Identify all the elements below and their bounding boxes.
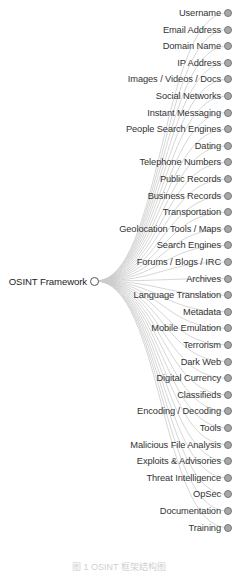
collapsed-node-circle-icon[interactable] xyxy=(224,225,232,233)
category-label: OpSec xyxy=(193,489,221,499)
category-node-mobile-emulation[interactable]: Mobile Emulation xyxy=(151,321,232,335)
category-node-archives[interactable]: Archives xyxy=(186,272,232,286)
collapsed-node-circle-icon[interactable] xyxy=(224,441,232,449)
collapsed-node-circle-icon[interactable] xyxy=(224,241,232,249)
category-node-people-search-engines[interactable]: People Search Engines xyxy=(126,122,232,136)
category-label: Instant Messaging xyxy=(147,108,221,118)
collapsed-node-circle-icon[interactable] xyxy=(224,9,232,17)
category-label: Username xyxy=(179,8,221,18)
collapsed-node-circle-icon[interactable] xyxy=(224,341,232,349)
tree-root-node[interactable]: OSINT Framework xyxy=(0,274,99,288)
category-node-opsec[interactable]: OpSec xyxy=(193,487,232,501)
collapsed-node-circle-icon[interactable] xyxy=(224,308,232,316)
category-label: Search Engines xyxy=(157,240,221,250)
collapsed-node-circle-icon[interactable] xyxy=(224,524,232,532)
collapsed-node-circle-icon[interactable] xyxy=(224,192,232,200)
collapsed-node-circle-icon[interactable] xyxy=(224,358,232,366)
collapsed-node-circle-icon[interactable] xyxy=(224,258,232,266)
category-node-tools[interactable]: Tools xyxy=(200,421,232,435)
root-label: OSINT Framework xyxy=(9,276,87,287)
collapsed-node-circle-icon[interactable] xyxy=(224,42,232,50)
category-node-username[interactable]: Username xyxy=(179,6,232,20)
category-node-transportation[interactable]: Transportation xyxy=(163,205,232,219)
category-label: Domain Name xyxy=(163,41,221,51)
category-label: Archives xyxy=(186,274,221,284)
category-label: Terrorism xyxy=(183,340,221,350)
category-node-social-networks[interactable]: Social Networks xyxy=(156,89,232,103)
category-node-encoding-decoding[interactable]: Encoding / Decoding xyxy=(137,404,232,418)
collapsed-node-circle-icon[interactable] xyxy=(224,424,232,432)
category-label: Public Records xyxy=(160,174,221,184)
category-node-email-address[interactable]: Email Address xyxy=(163,23,232,37)
category-label: Social Networks xyxy=(156,91,221,101)
collapsed-node-circle-icon[interactable] xyxy=(224,490,232,498)
collapsed-node-circle-icon[interactable] xyxy=(224,142,232,150)
category-label: Threat Intelligence xyxy=(146,473,221,483)
category-node-business-records[interactable]: Business Records xyxy=(148,189,232,203)
category-label: Mobile Emulation xyxy=(151,323,221,333)
collapsed-node-circle-icon[interactable] xyxy=(224,507,232,515)
category-node-search-engines[interactable]: Search Engines xyxy=(157,238,232,252)
collapsed-node-circle-icon[interactable] xyxy=(224,391,232,399)
category-label: Documentation xyxy=(160,506,221,516)
category-node-telephone-numbers[interactable]: Telephone Numbers xyxy=(139,155,232,169)
category-node-exploits-advisories[interactable]: Exploits & Advisories xyxy=(137,454,232,468)
collapsed-node-circle-icon[interactable] xyxy=(224,175,232,183)
collapsed-node-circle-icon[interactable] xyxy=(224,407,232,415)
category-node-images-videos-docs[interactable]: Images / Videos / Docs xyxy=(128,72,232,86)
collapsed-node-circle-icon[interactable] xyxy=(224,26,232,34)
collapsed-node-circle-icon[interactable] xyxy=(224,109,232,117)
category-node-dating[interactable]: Dating xyxy=(195,139,232,153)
category-node-training[interactable]: Training xyxy=(189,521,232,535)
collapsed-node-circle-icon[interactable] xyxy=(224,457,232,465)
category-label: Business Records xyxy=(148,191,221,201)
category-label: Encoding / Decoding xyxy=(137,406,221,416)
category-label: Telephone Numbers xyxy=(139,157,221,167)
collapsed-node-circle-icon[interactable] xyxy=(224,75,232,83)
category-node-forums-blogs-irc[interactable]: Forums / Blogs / IRC xyxy=(137,255,232,269)
category-label: Images / Videos / Docs xyxy=(128,74,221,84)
collapsed-node-circle-icon[interactable] xyxy=(224,92,232,100)
category-label: Dark Web xyxy=(181,357,221,367)
collapsed-node-circle-icon[interactable] xyxy=(224,59,232,67)
category-label: Transportation xyxy=(163,207,221,217)
collapsed-node-circle-icon[interactable] xyxy=(224,324,232,332)
category-label: IP Address xyxy=(177,58,221,68)
category-label: Training xyxy=(189,523,221,533)
collapsed-node-circle-icon[interactable] xyxy=(224,125,232,133)
collapsed-node-circle-icon[interactable] xyxy=(224,158,232,166)
category-label: Dating xyxy=(195,141,221,151)
category-label: Metadata xyxy=(183,307,221,317)
category-node-public-records[interactable]: Public Records xyxy=(160,172,232,186)
collapsed-node-circle-icon[interactable] xyxy=(224,291,232,299)
category-node-language-translation[interactable]: Language Translation xyxy=(134,288,232,302)
category-node-ip-address[interactable]: IP Address xyxy=(177,56,232,70)
category-node-metadata[interactable]: Metadata xyxy=(183,305,232,319)
expanded-node-circle-icon[interactable] xyxy=(90,277,99,286)
category-node-instant-messaging[interactable]: Instant Messaging xyxy=(147,106,232,120)
category-node-documentation[interactable]: Documentation xyxy=(160,504,232,518)
category-label: Digital Currency xyxy=(156,373,221,383)
collapsed-node-circle-icon[interactable] xyxy=(224,208,232,216)
category-label: Email Address xyxy=(163,25,221,35)
category-label: Geolocation Tools / Maps xyxy=(119,224,221,234)
category-label: Malicious File Analysis xyxy=(130,440,221,450)
category-label: People Search Engines xyxy=(126,124,221,134)
category-node-geolocation-tools-maps[interactable]: Geolocation Tools / Maps xyxy=(119,222,232,236)
category-node-terrorism[interactable]: Terrorism xyxy=(183,338,232,352)
category-node-domain-name[interactable]: Domain Name xyxy=(163,39,232,53)
category-node-threat-intelligence[interactable]: Threat Intelligence xyxy=(146,471,232,485)
category-label: Classifieds xyxy=(177,390,221,400)
category-node-classifieds[interactable]: Classifieds xyxy=(177,388,232,402)
collapsed-node-circle-icon[interactable] xyxy=(224,374,232,382)
collapsed-node-circle-icon[interactable] xyxy=(224,474,232,482)
category-label: Forums / Blogs / IRC xyxy=(137,257,221,267)
category-label: Tools xyxy=(200,423,221,433)
collapsed-node-circle-icon[interactable] xyxy=(224,275,232,283)
figure-caption: 图 1 OSINT 框架结构图 xyxy=(0,560,238,573)
category-label: Exploits & Advisories xyxy=(137,456,221,466)
category-node-dark-web[interactable]: Dark Web xyxy=(181,355,232,369)
category-node-malicious-file-analysis[interactable]: Malicious File Analysis xyxy=(130,438,232,452)
category-node-digital-currency[interactable]: Digital Currency xyxy=(156,371,232,385)
category-label: Language Translation xyxy=(134,290,221,300)
